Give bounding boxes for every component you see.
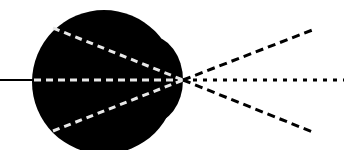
eye-diagram — [0, 0, 344, 150]
cornea-bulge — [117, 36, 183, 124]
